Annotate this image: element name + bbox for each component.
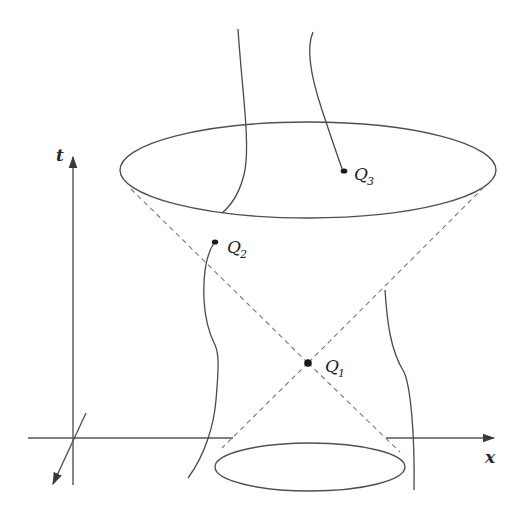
event-q2-label: Q <box>227 237 241 257</box>
worldline-right <box>385 290 414 490</box>
light-cone <box>131 187 484 452</box>
event-q3: Q 3 <box>341 164 374 188</box>
x-axis-label: x <box>484 447 496 467</box>
light-cone-line-left-lower <box>222 363 308 448</box>
event-q3-subscript: 3 <box>367 175 374 188</box>
event-q1-label: Q <box>325 356 339 376</box>
event-q1-subscript: 1 <box>338 367 345 380</box>
light-cone-line-right-lower <box>308 363 400 452</box>
event-q1-dot <box>304 359 312 367</box>
worldline-left <box>222 29 247 213</box>
worldline-q3 <box>310 32 343 171</box>
worldline-q2 <box>188 243 218 478</box>
light-cone-line-right-upper <box>308 187 484 363</box>
y-axis-oblique <box>53 413 86 484</box>
spacetime-diagram: t x Q 1 Q 2 Q 3 <box>0 0 523 516</box>
event-q2-dot <box>212 239 218 244</box>
t-axis-label: t <box>56 145 64 165</box>
event-q2: Q 2 <box>212 237 247 261</box>
light-cone-line-left-upper <box>131 189 308 363</box>
event-q1: Q 1 <box>304 356 345 380</box>
event-q2-subscript: 2 <box>239 248 247 261</box>
event-q3-dot <box>341 168 348 173</box>
worldlines <box>188 29 414 490</box>
lower-hypersurface-ellipse <box>215 443 405 491</box>
event-q3-label: Q <box>354 164 368 184</box>
upper-hypersurface-ellipse <box>120 122 496 218</box>
axes <box>28 157 494 485</box>
